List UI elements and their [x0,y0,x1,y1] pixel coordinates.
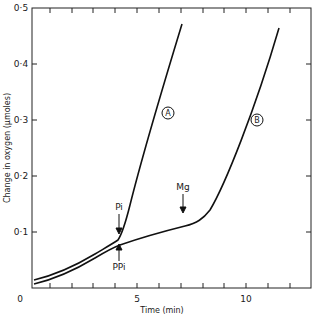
series-b-label: B [254,116,260,125]
y-tick-label-0.2: 0·2 [14,171,28,181]
x-ticks [50,8,290,288]
series-a-line [34,24,182,280]
y-axis-title: Change in oxygen (µmoles) [3,93,12,203]
y-tick-label-0.3: 0·3 [14,115,28,125]
x-tick-label-10: 10 [240,294,252,304]
y-tick-label-0.1: 0·1 [14,227,28,237]
y-tick-label-0.4: 0·4 [14,59,29,69]
mg-arrow [180,194,186,213]
y-tick-label-0.5: 0·5 [14,3,28,13]
y-ticks [32,64,311,232]
oxygen-time-chart: 0·5 0·4 0·3 0·2 0·1 0 5 10 Time (min) Ch… [0,0,316,316]
ppi-annotation: PPi [112,262,125,272]
origin-label: 0 [17,294,23,304]
x-axis-title: Time (min) [139,306,183,315]
series-b-line [34,28,279,284]
pi-annotation: Pi [115,202,123,212]
series-a-label: A [165,109,171,118]
plot-frame [32,8,311,288]
mg-annotation: Mg [176,182,189,192]
pi-arrow [116,214,122,234]
x-tick-label-5: 5 [134,294,140,304]
